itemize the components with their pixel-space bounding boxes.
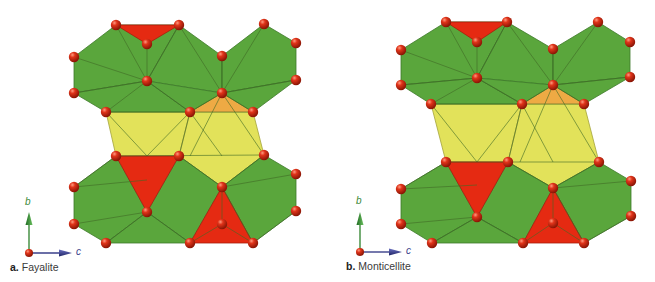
oxygen-atom: [625, 37, 635, 47]
axis-c-arrow-icon: [389, 249, 402, 256]
oxygen-atom: [248, 238, 258, 248]
oxygen-atom: [518, 238, 528, 248]
oxygen-atom: [174, 20, 184, 30]
oxygen-atom: [472, 73, 482, 83]
oxygen-atom: [248, 107, 258, 117]
oxygen-atom: [69, 52, 79, 62]
oxygen-atom: [396, 45, 406, 55]
caption-monticellite: b.Monticellite: [346, 260, 411, 272]
yellow-octahedron: [106, 112, 190, 156]
oxygen-atom: [259, 19, 269, 29]
axis-indicator: [356, 212, 402, 256]
oxygen-atom: [503, 157, 513, 167]
oxygen-atom: [502, 17, 512, 27]
caption-fayalite: a.Fayalite: [10, 261, 59, 273]
yellow-octahedron: [431, 104, 522, 162]
caption-mineral-name: Monticellite: [358, 260, 411, 272]
axis-c-label: c: [406, 245, 411, 256]
axis-origin-atom: [25, 249, 33, 257]
oxygen-atom: [291, 38, 301, 48]
axis-b-label: b: [25, 196, 31, 207]
oxygen-atom: [594, 157, 604, 167]
oxygen-atom: [217, 219, 227, 229]
oxygen-atom: [396, 80, 406, 90]
oxygen-atom: [259, 150, 269, 160]
oxygen-atom: [426, 99, 436, 109]
oxygen-atom: [142, 39, 152, 49]
oxygen-atom: [217, 182, 227, 192]
oxygen-atom: [396, 219, 406, 229]
oxygen-atom: [593, 17, 603, 27]
oxygen-atom: [69, 88, 79, 98]
oxygen-atom: [217, 88, 227, 98]
oxygen-atom: [185, 238, 195, 248]
axis-indicator: [25, 212, 72, 257]
oxygen-atom: [427, 238, 437, 248]
axis-b-arrow-icon: [26, 212, 33, 225]
oxygen-atom: [626, 176, 636, 186]
oxygen-atom: [579, 238, 589, 248]
oxygen-atom: [548, 218, 558, 228]
oxygen-atom: [441, 17, 451, 27]
oxygen-atom: [111, 20, 121, 30]
axis-b-arrow-icon: [357, 212, 364, 225]
caption-mineral-name: Fayalite: [22, 261, 59, 273]
oxygen-atom: [548, 183, 558, 193]
oxygen-atom: [625, 72, 635, 82]
caption-letter: b.: [346, 260, 355, 272]
axis-origin-atom: [356, 248, 364, 256]
oxygen-atom: [548, 44, 558, 54]
oxygen-atom: [101, 238, 111, 248]
oxygen-atom: [441, 157, 451, 167]
panel-fayalite: [25, 19, 301, 257]
oxygen-atom: [142, 76, 152, 86]
oxygen-atom: [69, 219, 79, 229]
oxygen-atom: [396, 184, 406, 194]
caption-letter: a.: [10, 261, 19, 273]
axis-c-label: c: [76, 246, 81, 257]
oxygen-atom: [291, 75, 301, 85]
oxygen-atom: [472, 37, 482, 47]
oxygen-atom: [472, 212, 482, 222]
oxygen-atom: [626, 211, 636, 221]
oxygen-atom: [174, 151, 184, 161]
oxygen-atom: [185, 107, 195, 117]
panel-monticellite: [356, 17, 636, 256]
crystal-structure-figure: [0, 0, 655, 282]
oxygen-atom: [111, 151, 121, 161]
oxygen-atom: [291, 169, 301, 179]
oxygen-atom: [579, 99, 589, 109]
oxygen-atom: [101, 107, 111, 117]
oxygen-atom: [69, 182, 79, 192]
oxygen-atom: [291, 206, 301, 216]
oxygen-atom: [217, 51, 227, 61]
oxygen-atom: [548, 80, 558, 90]
oxygen-atom: [142, 207, 152, 217]
axis-b-label: b: [356, 195, 362, 206]
axis-c-arrow-icon: [59, 250, 72, 257]
oxygen-atom: [517, 99, 527, 109]
